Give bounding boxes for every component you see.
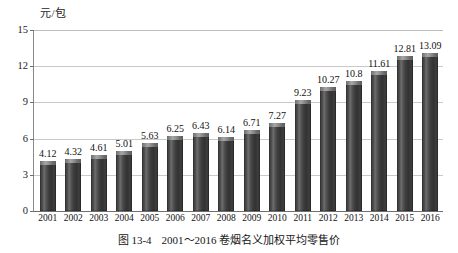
bar-value-label: 12.81 [394,44,417,54]
bar[interactable] [295,100,311,211]
y-axis-unit-label: 元/包 [40,4,67,20]
bar[interactable] [397,56,413,211]
x-axis-tick-label: 2011 [293,214,312,224]
y-axis-tick-mark [30,66,34,67]
bar[interactable] [422,53,438,211]
bar[interactable] [320,87,336,211]
bar[interactable] [91,155,107,211]
x-axis-tick-label: 2016 [421,214,440,224]
x-axis-tick-label: 2014 [370,214,389,224]
bar-slot: 7.272010 [265,30,291,211]
bar-value-label: 6.71 [243,118,261,128]
bar-value-label: 5.63 [141,131,159,141]
bar-slot: 11.612014 [367,30,393,211]
bar[interactable] [371,71,387,211]
bar[interactable] [244,130,260,211]
bar[interactable] [346,81,362,211]
bar[interactable] [193,133,209,211]
bar-slot: 6.432007 [188,30,214,211]
bar-value-label: 5.01 [116,139,134,149]
y-axis-tick-label: 15 [18,25,29,36]
bar-slot: 5.632005 [137,30,163,211]
bar-slot: 4.122001 [35,30,61,211]
bar-slot: 10.272012 [316,30,342,211]
bar-slot: 10.82013 [341,30,367,211]
y-axis-tick-mark [30,30,34,31]
bar-value-label: 10.27 [317,75,340,85]
bar[interactable] [65,159,81,211]
x-axis-tick-label: 2005 [140,214,159,224]
bar[interactable] [40,161,56,211]
bar-slot: 5.012004 [112,30,138,211]
x-axis-tick-label: 2012 [319,214,338,224]
x-axis-tick-label: 2013 [344,214,363,224]
bar-slot: 6.252006 [163,30,189,211]
bar-value-label: 6.43 [192,121,210,131]
bars-group: 4.1220014.3220024.6120035.0120045.632005… [35,30,443,211]
x-axis-tick-label: 2008 [217,214,236,224]
figure-caption: 图 13-42001～2016 卷烟名义加权平均零售价 [0,231,458,247]
y-axis-tick-mark [30,175,34,176]
bar-slot: 6.142008 [214,30,240,211]
bar-slot: 6.712009 [239,30,265,211]
y-axis-tick-label: 9 [23,97,28,108]
figure-container: 元/包 03691215 4.1220014.3220024.6120035.0… [0,0,458,253]
x-axis-tick-label: 2006 [166,214,185,224]
bar-value-label: 6.25 [167,124,185,134]
plot-area: 03691215 4.1220014.3220024.6120035.01200… [33,30,443,212]
y-axis-tick-label: 6 [23,133,28,144]
caption-figure-number: 图 13-4 [118,234,152,246]
caption-text: 2001～2016 卷烟名义加权平均零售价 [162,234,341,246]
bar-slot: 4.612003 [86,30,112,211]
bar-value-label: 9.23 [294,88,312,98]
bar[interactable] [142,143,158,211]
y-axis-tick-label: 0 [23,206,28,217]
bar[interactable] [218,137,234,211]
bar[interactable] [116,151,132,211]
y-axis-tick-label: 3 [23,170,28,181]
y-axis-tick-mark [30,102,34,103]
bar-slot: 13.092016 [418,30,444,211]
bar[interactable] [269,123,285,211]
bar-value-label: 7.27 [269,111,287,121]
x-axis-tick-label: 2010 [268,214,287,224]
bar-slot: 12.812015 [392,30,418,211]
bar[interactable] [167,136,183,211]
bar-value-label: 4.12 [39,149,57,159]
bar-value-label: 4.32 [65,147,83,157]
x-axis-tick-label: 2015 [395,214,414,224]
x-axis-tick-label: 2002 [64,214,83,224]
x-axis-tick-label: 2001 [38,214,57,224]
bar-value-label: 10.8 [345,69,363,79]
x-axis-tick-label: 2004 [115,214,134,224]
bar-slot: 4.322002 [61,30,87,211]
x-axis-tick-label: 2003 [89,214,108,224]
bar-value-label: 11.61 [368,59,390,69]
y-axis-tick-mark [30,139,34,140]
x-axis-tick-label: 2009 [242,214,261,224]
bar-slot: 9.232011 [290,30,316,211]
bar-value-label: 13.09 [419,41,442,51]
x-axis-tick-label: 2007 [191,214,210,224]
bar-value-label: 6.14 [218,125,236,135]
bar-value-label: 4.61 [90,143,108,153]
y-axis-tick-mark [30,211,34,212]
y-axis-tick-label: 12 [18,61,29,72]
